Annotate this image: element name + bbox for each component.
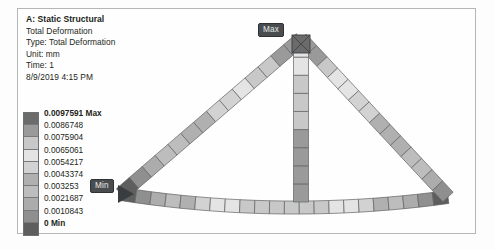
max-probe-badge[interactable]: Max — [258, 23, 284, 37]
mesh-element-vertical-column-3 — [294, 130, 309, 148]
mesh-element-bottom-chord-15 — [344, 199, 360, 213]
mesh-element-vertical-column-1 — [294, 166, 309, 184]
mesh-element-bottom-chord-9 — [254, 200, 269, 213]
mesh-element-bottom-chord-3 — [165, 194, 181, 209]
mesh-element-bottom-chord-11 — [284, 201, 299, 214]
mesh-element-bottom-chord-12 — [299, 201, 314, 214]
mesh-element-bottom-chord-18 — [388, 196, 404, 210]
mesh-element-vertical-column-0 — [294, 184, 309, 202]
mesh-element-bottom-chord-7 — [225, 199, 241, 213]
mesh-element-bottom-chord-1 — [135, 190, 152, 205]
mesh-element-bottom-chord-5 — [195, 197, 211, 211]
mesh-element-bottom-chord-2 — [150, 192, 166, 207]
mesh-element-vertical-column-6 — [294, 75, 309, 93]
mesh-element-bottom-chord-6 — [210, 198, 226, 212]
mesh-element-bottom-chord-17 — [373, 197, 389, 211]
mesh-element-vertical-column-5 — [294, 93, 309, 111]
mesh-element-bottom-chord-4 — [180, 195, 196, 209]
mesh-element-vertical-column-2 — [294, 148, 309, 166]
result-frame: A: Static Structural Total Deformation T… — [17, 8, 476, 234]
mesh-element-bottom-chord-16 — [358, 198, 374, 212]
mesh-element-bottom-chord-19 — [403, 194, 419, 208]
mesh-element-bottom-chord-8 — [240, 200, 255, 214]
mesh-element-vertical-column-7 — [294, 57, 309, 75]
min-probe-badge[interactable]: Min — [90, 179, 114, 193]
mesh-element-bottom-chord-14 — [329, 200, 344, 214]
mesh-element-group — [116, 34, 453, 214]
result-viewport: A: Static Structural Total Deformation T… — [0, 0, 495, 250]
mesh-element-bottom-chord-13 — [314, 201, 329, 214]
mesh-element-vertical-column-4 — [294, 111, 309, 129]
mesh-element-bottom-chord-10 — [269, 201, 284, 214]
mesh-element-bottom-chord-20 — [417, 192, 433, 207]
truss-mesh-model — [18, 9, 477, 235]
